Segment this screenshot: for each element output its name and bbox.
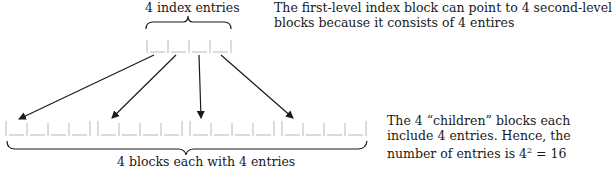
first-level-index-block xyxy=(147,40,231,53)
arrow-1 xyxy=(19,55,154,119)
arrow-3 xyxy=(199,55,201,118)
children-note-line3-suffix: = 16 xyxy=(532,146,566,161)
second-level-blocks xyxy=(6,121,366,136)
arrow-2 xyxy=(112,55,176,118)
top-brace xyxy=(146,16,231,29)
pointer-arrows xyxy=(19,55,293,119)
bottom-brace xyxy=(7,141,367,155)
arrow-4 xyxy=(221,55,293,118)
